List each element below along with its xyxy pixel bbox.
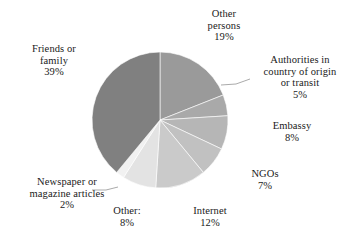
slice-value: 39% — [12, 66, 96, 78]
slice-value: 2% — [6, 199, 128, 211]
slice-label-other-persons: Other persons 19% — [186, 8, 262, 43]
slice-label-line: country of origin — [252, 66, 348, 78]
slice-label-line: magazine articles — [6, 188, 128, 200]
slice-label-ngos: NGOs 7% — [232, 168, 298, 191]
slice-label-line: family — [12, 55, 96, 67]
slice-label-authorities: Authorities in country of origin or tran… — [252, 54, 348, 100]
slice-label-line: NGOs — [232, 168, 298, 180]
slice-label-line: Newspaper or — [6, 176, 128, 188]
slice-label-line: Friends or — [12, 43, 96, 55]
slice-value: 12% — [172, 217, 248, 229]
slice-value: 8% — [250, 132, 334, 144]
slice-label-line: Other — [186, 8, 262, 20]
slice-label-line: Embassy — [250, 120, 334, 132]
slice-value: 5% — [252, 89, 348, 101]
pie-chart: Other persons 19% Authorities in country… — [0, 0, 350, 245]
leader-line-authorities — [221, 79, 250, 85]
slice-value: 8% — [96, 217, 158, 229]
slice-value: 7% — [232, 180, 298, 192]
slice-label-embassy: Embassy 8% — [250, 120, 334, 143]
slice-label-line: or transit — [252, 77, 348, 89]
slice-label-line: persons — [186, 20, 262, 32]
slice-label-newspaper: Newspaper or magazine articles 2% — [6, 176, 128, 211]
slice-label-line: Authorities in — [252, 54, 348, 66]
pie-slice-group — [92, 52, 228, 188]
slice-label-line: Internet — [172, 205, 248, 217]
slice-value: 19% — [186, 31, 262, 43]
slice-label-internet: Internet 12% — [172, 205, 248, 228]
slice-label-friends-or-family: Friends or family 39% — [12, 43, 96, 78]
